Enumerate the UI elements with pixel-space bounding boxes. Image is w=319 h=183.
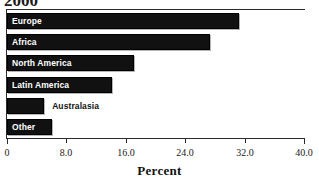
x-axis-line xyxy=(6,138,305,139)
bar-row: Latin America xyxy=(7,75,304,96)
x-tick-label: 40.0 xyxy=(295,147,313,158)
bar-row: Other xyxy=(7,117,304,138)
bar-chart: 2000 Europe Africa North America Latin A… xyxy=(0,0,319,183)
x-tick xyxy=(66,138,67,143)
x-tick xyxy=(245,138,246,143)
x-tick xyxy=(304,138,305,144)
x-tick-label: 16.0 xyxy=(117,147,135,158)
bar-label-north-america: North America xyxy=(12,56,72,70)
bar-label-africa: Africa xyxy=(12,35,37,49)
bar-australasia xyxy=(7,98,44,114)
bar-label-europe: Europe xyxy=(12,14,42,28)
x-tick xyxy=(126,138,127,143)
x-tick-label: 0 xyxy=(5,147,10,158)
bar-africa xyxy=(7,34,210,50)
bar-row: Africa xyxy=(7,32,304,53)
bar-label-other: Other xyxy=(12,120,35,134)
x-tick-label: 24.0 xyxy=(176,147,194,158)
plot-frame-top xyxy=(6,9,305,10)
x-tick-label: 32.0 xyxy=(236,147,254,158)
plot-area: Europe Africa North America Latin Americ… xyxy=(7,11,304,138)
bar-row: North America xyxy=(7,53,304,74)
bar-row: Australasia xyxy=(7,96,304,117)
bar-label-latin-america: Latin America xyxy=(12,78,69,92)
x-tick-label: 8.0 xyxy=(60,147,73,158)
bar-label-australasia: Australasia xyxy=(52,99,99,113)
x-axis-title: Percent xyxy=(0,163,319,179)
x-tick xyxy=(7,138,8,144)
bar-row: Europe xyxy=(7,11,304,32)
x-tick xyxy=(185,138,186,143)
